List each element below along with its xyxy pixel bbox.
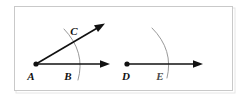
point-label-c: C: [70, 25, 78, 37]
point-label-d: D: [121, 70, 130, 82]
vertex-dot-a: [33, 61, 38, 66]
point-label-b: B: [63, 70, 71, 82]
point-label-e: E: [155, 70, 163, 82]
geometry-figure-container: A B C D E: [0, 0, 244, 99]
geometry-diagram-canvas: A B C D E: [0, 0, 244, 99]
point-label-a: A: [26, 70, 34, 82]
vertex-dot-d: [124, 61, 129, 66]
